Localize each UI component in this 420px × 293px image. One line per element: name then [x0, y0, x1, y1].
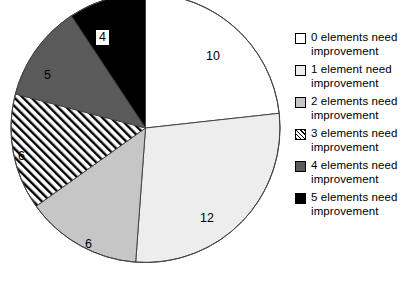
legend-swatch-icon-3	[295, 129, 306, 140]
legend-swatch-icon-1	[295, 65, 306, 76]
slice-label-10: 10	[206, 50, 220, 63]
pie-slice-0	[146, 0, 280, 128]
pie-slice-1	[136, 113, 280, 262]
legend-swatch-icon-0	[295, 33, 306, 44]
pie-slices	[11, 0, 280, 263]
pie-chart: 10 12 6 6 5 4 0 elements need improvemen…	[0, 0, 420, 293]
legend-label-0: 0 elements need improvement	[311, 31, 398, 58]
slice-label-6-hatch: 6	[18, 150, 25, 163]
legend-label-5: 5 elements need improvement	[311, 191, 398, 218]
legend-item-1: 1 element need improvement	[295, 63, 420, 90]
slice-label-6-gray: 6	[85, 238, 92, 251]
legend-swatch-icon-2	[295, 97, 306, 108]
pie-graphic	[0, 0, 300, 293]
legend-item-3: 3 elements need improvement	[295, 127, 420, 154]
slice-label-12: 12	[200, 212, 214, 225]
legend-label-4: 4 elements need improvement	[311, 159, 398, 186]
legend-swatch-icon-5	[295, 193, 306, 204]
legend-item-5: 5 elements need improvement	[295, 191, 420, 218]
slice-label-5: 5	[44, 69, 51, 82]
legend-label-3: 3 elements need improvement	[311, 127, 398, 154]
legend-item-4: 4 elements need improvement	[295, 159, 420, 186]
legend-label-2: 2 elements need improvement	[311, 95, 398, 122]
legend-item-2: 2 elements need improvement	[295, 95, 420, 122]
legend-swatch-icon-4	[295, 161, 306, 172]
legend: 0 elements need improvement 1 element ne…	[295, 31, 420, 223]
slice-label-4: 4	[96, 30, 109, 45]
legend-label-1: 1 element need improvement	[311, 63, 392, 90]
legend-item-0: 0 elements need improvement	[295, 31, 420, 58]
